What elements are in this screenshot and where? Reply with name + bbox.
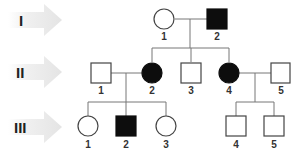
- male-affected-icon: [116, 116, 136, 136]
- male-unaffected-icon: [91, 63, 111, 83]
- individual-III-5: 5: [264, 116, 284, 150]
- individual-III-2: 2: [116, 116, 136, 150]
- individual-II-1: 1: [91, 63, 111, 96]
- individual-number: 1: [98, 85, 104, 96]
- individual-number: 4: [233, 139, 239, 150]
- individual-number: 1: [161, 31, 167, 42]
- male-unaffected-icon: [264, 116, 284, 136]
- individual-II-5: 5: [271, 63, 290, 96]
- individual-III-4: 4: [226, 116, 246, 150]
- individual-number: 5: [278, 85, 284, 96]
- generation-arrow-III: III: [8, 111, 62, 143]
- individual-number: 2: [123, 139, 129, 150]
- individual-number: 5: [271, 139, 277, 150]
- arrow-icon: [8, 4, 62, 36]
- female-unaffected-icon: [156, 116, 176, 136]
- female-unaffected-icon: [154, 9, 174, 29]
- individual-number: 2: [214, 31, 220, 42]
- individual-I-1: 1: [154, 9, 174, 42]
- generation-arrow-II: II: [8, 56, 62, 88]
- pedigree-chart: I II III 1 2: [0, 0, 307, 155]
- generation-label-I: I: [19, 12, 23, 29]
- individual-number: 2: [149, 85, 155, 96]
- individual-number: 3: [163, 139, 169, 150]
- female-affected-icon: [219, 63, 239, 83]
- male-unaffected-icon: [226, 116, 246, 136]
- individual-I-2: 2: [207, 9, 227, 42]
- individual-III-1: 1: [78, 116, 98, 150]
- female-unaffected-icon: [78, 116, 98, 136]
- individual-II-2: 2: [142, 63, 162, 96]
- individual-number: 3: [188, 85, 194, 96]
- individual-II-4: 4: [219, 63, 239, 96]
- individual-number: 1: [85, 139, 91, 150]
- individual-number: 4: [226, 85, 232, 96]
- individual-III-3: 3: [156, 116, 176, 150]
- male-affected-icon: [207, 9, 227, 29]
- generation-label-II: II: [16, 64, 24, 81]
- male-unaffected-icon: [181, 63, 201, 83]
- male-unaffected-icon: [271, 63, 290, 83]
- female-affected-icon: [142, 63, 162, 83]
- generation-label-III: III: [14, 119, 27, 136]
- generation-arrow-I: I: [8, 4, 62, 36]
- individual-II-3: 3: [181, 63, 201, 96]
